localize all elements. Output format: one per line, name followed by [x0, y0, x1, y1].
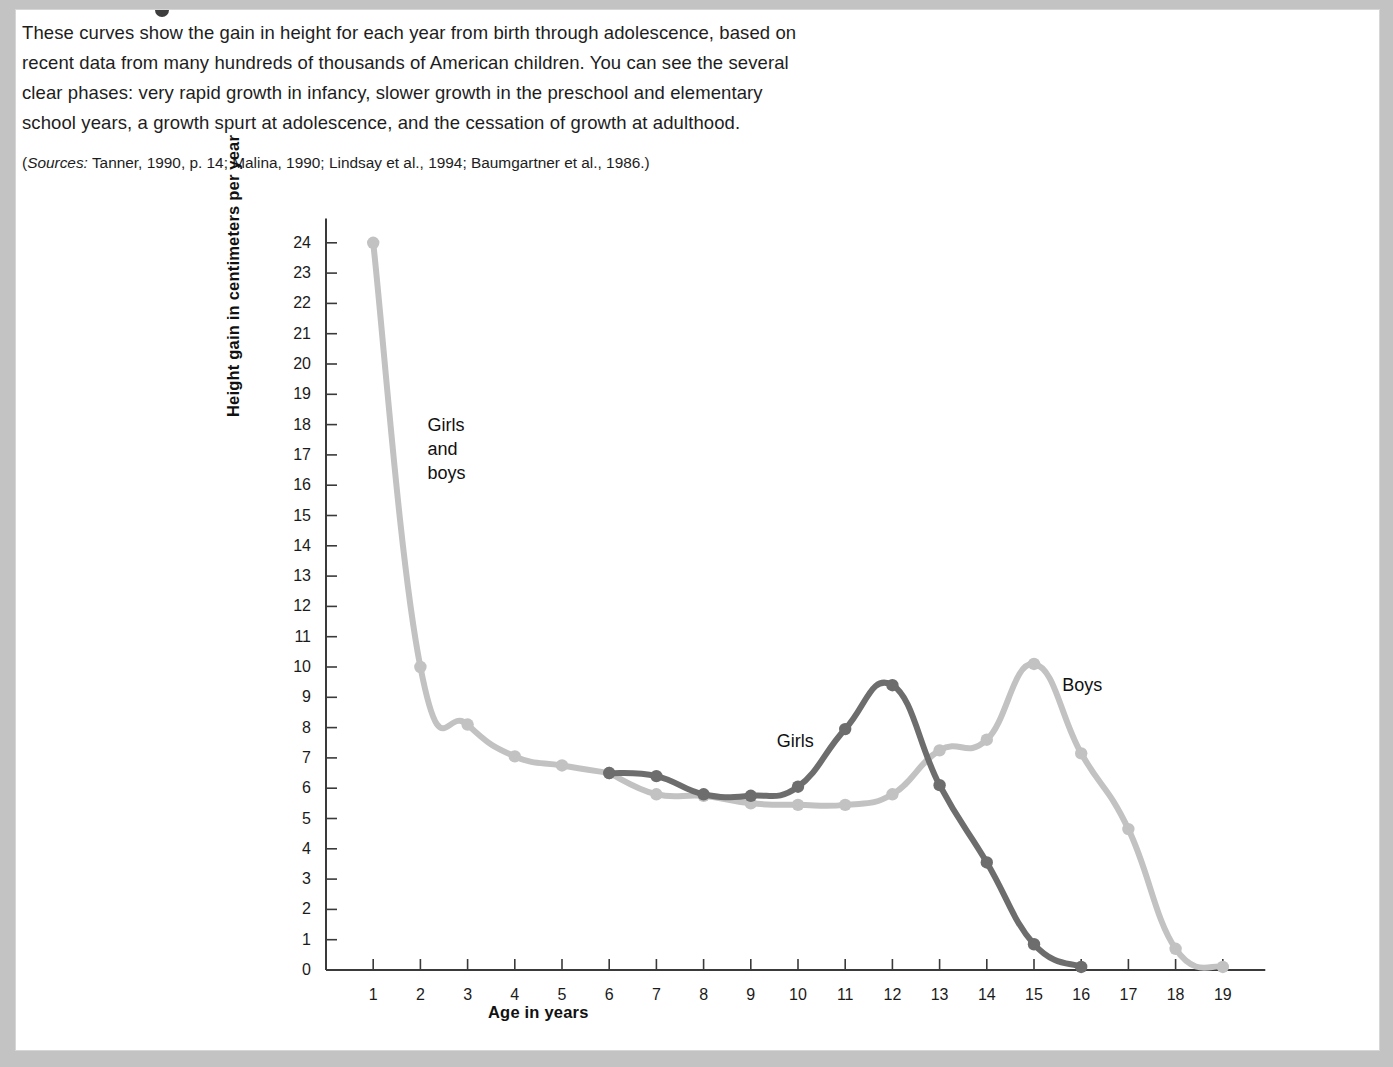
y-tick-label: 7 — [281, 749, 311, 767]
sources-label: Sources: — [27, 154, 88, 171]
data-point — [1028, 658, 1040, 670]
y-tick-label: 15 — [281, 507, 311, 525]
y-tick-label: 17 — [281, 446, 311, 464]
data-point — [839, 799, 851, 811]
x-tick-label: 3 — [453, 986, 483, 1004]
caption-line: clear phases: very rapid growth in infan… — [22, 78, 902, 108]
data-point — [650, 788, 662, 800]
data-point — [981, 856, 993, 868]
x-tick-label: 19 — [1208, 986, 1238, 1004]
series-girls-and-boys — [367, 237, 615, 780]
x-tick-label: 13 — [925, 986, 955, 1004]
x-tick-label: 7 — [641, 986, 671, 1004]
series-boys — [603, 658, 1229, 973]
y-tick-label: 2 — [281, 900, 311, 918]
y-tick-label: 12 — [281, 597, 311, 615]
data-point — [650, 770, 662, 782]
data-point — [1169, 943, 1181, 955]
y-tick-label: 16 — [281, 476, 311, 494]
caption-line: These curves show the gain in height for… — [22, 18, 902, 48]
data-point — [745, 790, 757, 802]
data-point — [792, 799, 804, 811]
y-tick-label: 6 — [281, 779, 311, 797]
y-tick-label: 20 — [281, 355, 311, 373]
y-tick-label: 18 — [281, 416, 311, 434]
x-tick-label: 6 — [594, 986, 624, 1004]
y-tick-label: 11 — [281, 628, 311, 646]
y-tick-label: 8 — [281, 719, 311, 737]
data-point — [839, 723, 851, 735]
x-tick-label: 11 — [830, 986, 860, 1004]
girls-label: Girls — [777, 729, 814, 753]
data-point — [1028, 938, 1040, 950]
caption-line: recent data from many hundreds of thousa… — [22, 48, 902, 78]
growth-rate-chart: Height gain in centimeters per year Age … — [226, 195, 1326, 1035]
x-tick-label: 18 — [1161, 986, 1191, 1004]
data-point — [886, 788, 898, 800]
y-tick-label: 1 — [281, 931, 311, 949]
y-tick-label: 10 — [281, 658, 311, 676]
x-tick-label: 4 — [500, 986, 530, 1004]
data-point — [933, 779, 945, 791]
series-girls — [603, 679, 1087, 973]
data-point — [1122, 823, 1134, 835]
y-tick-label: 3 — [281, 870, 311, 888]
x-tick-label: 12 — [877, 986, 907, 1004]
data-point — [981, 734, 993, 746]
boys-label: Boys — [1062, 673, 1102, 697]
data-point — [1075, 961, 1087, 973]
y-tick-label: 4 — [281, 840, 311, 858]
sources-citations: Tanner, 1990, p. 14; Malina, 1990; Linds… — [88, 154, 650, 171]
data-point — [1075, 747, 1087, 759]
chart-svg — [226, 195, 1326, 1035]
data-point — [509, 750, 521, 762]
x-tick-label: 16 — [1066, 986, 1096, 1004]
data-point — [603, 767, 615, 779]
y-tick-label: 0 — [281, 961, 311, 979]
series-line — [609, 664, 1223, 968]
page-sheet: These curves show the gain in height for… — [16, 10, 1379, 1050]
x-tick-label: 5 — [547, 986, 577, 1004]
data-point — [697, 788, 709, 800]
y-tick-label: 23 — [281, 264, 311, 282]
page-frame: These curves show the gain in height for… — [0, 0, 1393, 1067]
data-point — [1217, 961, 1229, 973]
x-tick-label: 1 — [358, 986, 388, 1004]
data-point — [933, 744, 945, 756]
plot-area: 0123456789101112131415161718192021222324… — [226, 195, 1326, 1035]
data-point — [461, 718, 473, 730]
x-tick-label: 9 — [736, 986, 766, 1004]
y-tick-label: 22 — [281, 294, 311, 312]
x-tick-label: 10 — [783, 986, 813, 1004]
y-tick-label: 21 — [281, 325, 311, 343]
y-tick-label: 13 — [281, 567, 311, 585]
girls-and-boys-label: Girls and boys — [427, 413, 465, 485]
data-point — [414, 661, 426, 673]
y-tick-label: 9 — [281, 688, 311, 706]
series-line — [373, 243, 609, 773]
figure-marker-nub — [155, 10, 169, 17]
data-point — [556, 759, 568, 771]
data-point — [886, 679, 898, 691]
y-tick-label: 19 — [281, 385, 311, 403]
x-tick-label: 8 — [689, 986, 719, 1004]
y-tick-label: 24 — [281, 234, 311, 252]
data-point — [792, 780, 804, 792]
x-tick-label: 14 — [972, 986, 1002, 1004]
x-tick-label: 15 — [1019, 986, 1049, 1004]
y-tick-label: 5 — [281, 810, 311, 828]
x-tick-label: 17 — [1113, 986, 1143, 1004]
data-point — [367, 237, 379, 249]
y-tick-label: 14 — [281, 537, 311, 555]
caption-line: school years, a growth spurt at adolesce… — [22, 108, 902, 138]
figure-caption: These curves show the gain in height for… — [22, 18, 902, 138]
x-tick-label: 2 — [405, 986, 435, 1004]
figure-sources: (Sources: Tanner, 1990, p. 14; Malina, 1… — [22, 152, 922, 174]
